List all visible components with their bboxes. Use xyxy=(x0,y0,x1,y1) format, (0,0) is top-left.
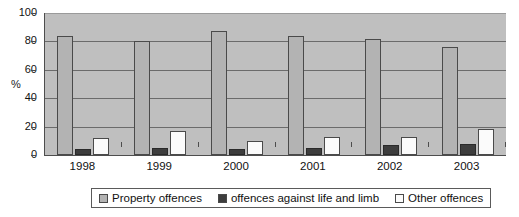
x-tick-mark xyxy=(275,142,276,147)
x-tick-label: 2001 xyxy=(275,160,352,173)
bar xyxy=(57,36,73,155)
bar xyxy=(383,145,399,155)
legend-label: offences against life and limb xyxy=(231,192,379,204)
legend-item: offences against life and limb xyxy=(218,192,379,204)
legend-swatch-icon xyxy=(99,194,108,203)
x-tick-mark xyxy=(428,142,429,147)
bar xyxy=(442,47,458,155)
y-tick-mark xyxy=(31,13,36,14)
bar-group xyxy=(352,13,429,155)
y-tick-mark xyxy=(31,127,36,128)
legend-label: Property offences xyxy=(112,192,202,204)
y-tick-mark xyxy=(31,98,36,99)
x-tick-mark xyxy=(44,142,45,147)
x-tick-mark xyxy=(351,142,352,147)
bar xyxy=(170,131,186,155)
x-tick-label: 2003 xyxy=(428,160,505,173)
bar-group xyxy=(45,13,122,155)
y-tick-mark xyxy=(31,70,36,71)
plot-area xyxy=(44,13,506,156)
y-tick-mark xyxy=(31,155,36,156)
bar-group xyxy=(429,13,506,155)
bar xyxy=(460,144,476,155)
bar-group xyxy=(122,13,199,155)
x-tick-label: 2000 xyxy=(198,160,275,173)
legend-swatch-icon xyxy=(218,194,227,203)
bar xyxy=(365,39,381,155)
bar xyxy=(93,138,109,155)
y-axis: 020406080100 xyxy=(0,0,37,217)
x-tick-mark xyxy=(198,142,199,147)
x-tick-label: 1998 xyxy=(44,160,121,173)
legend-swatch-icon xyxy=(395,194,404,203)
bar xyxy=(134,41,150,155)
legend-item: Other offences xyxy=(395,192,483,204)
bar-chart: % 020406080100 199819992000200120022003 … xyxy=(0,0,519,217)
bar xyxy=(324,137,340,155)
bar xyxy=(247,141,263,155)
chart-legend: Property offencesoffences against life a… xyxy=(91,188,491,208)
bar xyxy=(306,148,322,155)
bar xyxy=(478,129,494,155)
y-tick-mark xyxy=(31,41,36,42)
bar xyxy=(229,149,245,155)
legend-item: Property offences xyxy=(99,192,202,204)
bar xyxy=(401,137,417,155)
bar xyxy=(288,36,304,155)
x-tick-mark xyxy=(121,142,122,147)
bar xyxy=(211,31,227,155)
bar xyxy=(152,148,168,155)
x-tick-mark xyxy=(505,142,506,147)
legend-label: Other offences xyxy=(408,192,483,204)
bar-group xyxy=(199,13,276,155)
bar-group xyxy=(276,13,353,155)
x-tick-label: 1999 xyxy=(121,160,198,173)
bar xyxy=(75,149,91,155)
x-tick-label: 2002 xyxy=(351,160,428,173)
